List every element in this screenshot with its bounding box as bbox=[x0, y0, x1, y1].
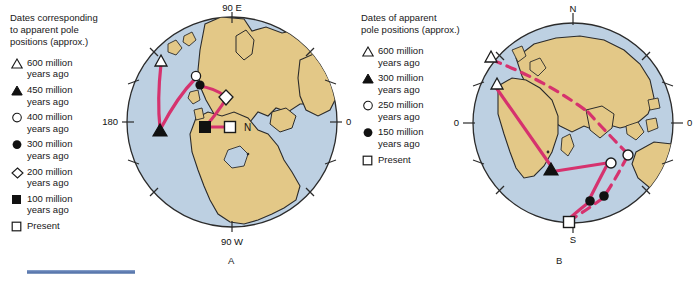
square-filled-icon bbox=[10, 194, 27, 205]
legend-a-item-450ma: 450 million years ago bbox=[10, 84, 130, 107]
triangle-filled-icon bbox=[361, 73, 378, 84]
square-open-icon bbox=[10, 221, 27, 232]
legend-b-item-150ma: 150 million years ago bbox=[361, 126, 491, 149]
legend-a-items: 600 million years ago 450 million years … bbox=[10, 57, 130, 232]
legend-a-item-400ma: 400 million years ago bbox=[10, 111, 130, 134]
legend-a-label-600ma: 600 million years ago bbox=[27, 57, 72, 80]
legend-b-item-600ma: 600 million years ago bbox=[361, 45, 491, 68]
marker-b-present-square-open bbox=[564, 217, 575, 228]
marker-a-400ma-circle-open bbox=[191, 71, 200, 80]
globe-a-present-pole-label: N bbox=[244, 122, 251, 133]
legend-b-items: 600 million years ago 300 million years … bbox=[361, 45, 491, 166]
triangle-filled-icon bbox=[10, 85, 27, 96]
island-se-asia-3 bbox=[648, 98, 660, 110]
legend-a-label-400ma: 400 million years ago bbox=[27, 111, 72, 134]
footer-rule bbox=[27, 270, 135, 274]
globe-b-label-right: 0 bbox=[687, 117, 692, 128]
map-dot-a bbox=[247, 153, 250, 156]
legend-a-item-present: Present bbox=[10, 220, 130, 232]
legend-panel-b: Dates of apparent pole positions (approx… bbox=[361, 12, 491, 170]
legend-a-title: Dates corresponding to apparent pole pos… bbox=[10, 12, 130, 48]
legend-b-item-present: Present bbox=[361, 154, 491, 166]
panel-a-label: A bbox=[228, 255, 234, 266]
legend-b-item-250ma: 250 million years ago bbox=[361, 99, 491, 122]
globe-a-label-bottom: 90 W bbox=[221, 236, 243, 247]
legend-a-item-100ma: 100 million years ago bbox=[10, 193, 130, 216]
globe-a-label-right: 0 bbox=[346, 116, 351, 127]
globe-a: N 90 E 90 W 180 0 bbox=[102, 2, 351, 247]
marker-b-250ma-circle-open-2 bbox=[623, 150, 633, 160]
legend-a-label-300ma: 300 million years ago bbox=[27, 138, 72, 161]
legend-a-label-200ma: 200 million years ago bbox=[27, 166, 72, 189]
legend-a-label-450ma: 450 million years ago bbox=[27, 84, 72, 107]
panel-b-label: B bbox=[556, 255, 562, 266]
legend-a-label-100ma: 100 million years ago bbox=[27, 193, 72, 216]
globe-b-label-bottom: S bbox=[570, 234, 576, 245]
globe-a-label-top: 90 E bbox=[222, 2, 242, 13]
legend-b-label-300ma: 300 million years ago bbox=[378, 72, 423, 95]
triangle-open-icon bbox=[10, 58, 27, 69]
legend-b-label-250ma: 250 million years ago bbox=[378, 99, 423, 122]
legend-b-title: Dates of apparent pole positions (approx… bbox=[361, 12, 491, 36]
legend-b-label-150ma: 150 million years ago bbox=[378, 126, 423, 149]
marker-a-300ma-circle-filled bbox=[195, 80, 204, 89]
marker-a-present-square-open bbox=[225, 122, 236, 133]
legend-b-label-600ma: 600 million years ago bbox=[378, 45, 423, 68]
legend-b-item-300ma: 300 million years ago bbox=[361, 72, 491, 95]
square-open-icon bbox=[361, 155, 378, 166]
legend-b-label-present: Present bbox=[378, 154, 411, 166]
circle-open-icon bbox=[361, 100, 378, 111]
marker-a-100ma-square-filled bbox=[199, 121, 211, 133]
circle-open-icon bbox=[10, 112, 27, 123]
triangle-open-icon bbox=[361, 46, 378, 57]
legend-a-item-300ma: 300 million years ago bbox=[10, 138, 130, 161]
legend-panel-a: Dates corresponding to apparent pole pos… bbox=[10, 12, 130, 236]
legend-a-label-present: Present bbox=[27, 220, 60, 232]
legend-a-item-600ma: 600 million years ago bbox=[10, 57, 130, 80]
marker-b-150ma-circle-filled-2 bbox=[599, 191, 609, 201]
marker-b-250ma-circle-open-1 bbox=[606, 158, 616, 168]
legend-a-item-200ma: 200 million years ago bbox=[10, 166, 130, 189]
island-nw-4 bbox=[194, 108, 204, 120]
circle-filled-icon bbox=[361, 127, 378, 138]
map-dot-b bbox=[547, 151, 550, 154]
circle-filled-icon bbox=[10, 139, 27, 150]
diamond-open-icon bbox=[10, 167, 27, 178]
globe-b-label-top: N bbox=[570, 3, 577, 14]
marker-b-150ma-circle-filled-1 bbox=[585, 196, 595, 206]
figure-polar-wander: N 90 E 90 W 180 0 bbox=[0, 0, 693, 281]
